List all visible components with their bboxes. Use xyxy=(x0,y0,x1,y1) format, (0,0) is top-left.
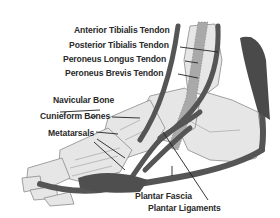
label-metatarsals: Metatarsals xyxy=(48,128,94,138)
plantar-muscles xyxy=(78,173,148,193)
label-plantar-ligaments: Plantar Ligaments xyxy=(148,203,221,213)
label-peroneus-brevis-tendon: Peroneus Brevis Tendon xyxy=(65,68,163,78)
label-navicular-bone: Navicular Bone xyxy=(53,95,114,105)
label-anterior-tibialis-tendon: Anterior Tibialis Tendon xyxy=(74,25,170,35)
label-posterior-tibialis-tendon: Posterior Tibialis Tendon xyxy=(69,40,169,50)
foot-anatomy-diagram: Anterior Tibialis Tendon Posterior Tibia… xyxy=(0,0,280,218)
label-plantar-fascia: Plantar Fascia xyxy=(135,191,192,201)
label-peroneus-longus-tendon: Peroneus Longus Tendon xyxy=(63,54,166,64)
label-cuneiform-bones: Cunieform Bones xyxy=(40,111,110,121)
